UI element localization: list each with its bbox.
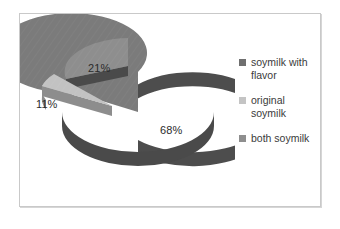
- legend-label-both-soymilk: both soymilk: [251, 132, 309, 145]
- data-label-original-soymilk: 11%: [36, 98, 58, 110]
- legend-item-soymilk-with-flavor[interactable]: soymilk with flavor: [239, 56, 321, 82]
- legend-label-original-soymilk: original soymilk: [251, 94, 321, 120]
- data-label-soymilk-with-flavor: 68%: [160, 124, 182, 136]
- pie-plot-area: 68% 21% 11%: [20, 14, 235, 206]
- data-label-both-soymilk: 21%: [88, 62, 110, 74]
- pie-chart-graphic: [20, 14, 235, 206]
- legend-swatch-icon-original-soymilk: [239, 97, 246, 104]
- chart-frame: 68% 21% 11% soymilk with flavor original…: [19, 13, 321, 207]
- chart-canvas: 68% 21% 11% soymilk with flavor original…: [0, 0, 340, 229]
- legend-swatch-icon-soymilk-with-flavor: [239, 59, 246, 66]
- chart-legend: soymilk with flavor original soymilk bot…: [239, 56, 321, 157]
- legend-swatch-icon-both-soymilk: [239, 135, 246, 142]
- legend-item-both-soymilk[interactable]: both soymilk: [239, 132, 321, 145]
- legend-label-soymilk-with-flavor: soymilk with flavor: [251, 56, 321, 82]
- legend-item-original-soymilk[interactable]: original soymilk: [239, 94, 321, 120]
